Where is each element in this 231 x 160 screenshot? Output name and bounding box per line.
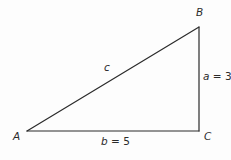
vertex-label-a: A: [13, 131, 20, 142]
right-triangle-figure: A B C c a = 3 b = 5: [0, 0, 231, 160]
side-b-value: = 5: [108, 135, 130, 147]
vertex-label-c: C: [204, 131, 212, 142]
side-label-b: b = 5: [101, 136, 130, 147]
side-label-hypotenuse: c: [104, 62, 110, 73]
side-label-a: a = 3: [203, 71, 231, 82]
vertex-label-b: B: [196, 7, 203, 18]
side-a-value: = 3: [209, 70, 231, 82]
hypotenuse-line: [27, 27, 199, 131]
side-b-variable: b: [101, 135, 108, 147]
